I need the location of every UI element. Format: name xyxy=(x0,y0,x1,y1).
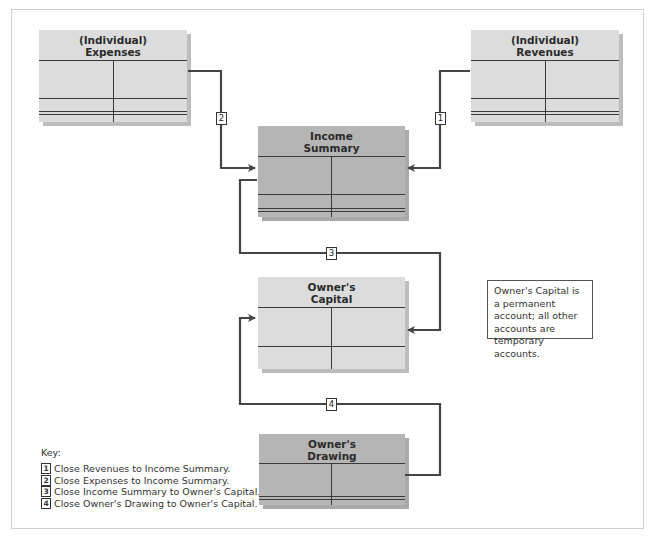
connector-label-4: 4 xyxy=(326,398,337,411)
connector-3 xyxy=(240,180,440,330)
connector-label-2: 2 xyxy=(216,112,227,125)
connector-label-3: 3 xyxy=(326,247,337,260)
connector-label-1: 1 xyxy=(435,112,446,125)
connector-lines xyxy=(0,0,655,551)
connector-4 xyxy=(240,318,440,475)
